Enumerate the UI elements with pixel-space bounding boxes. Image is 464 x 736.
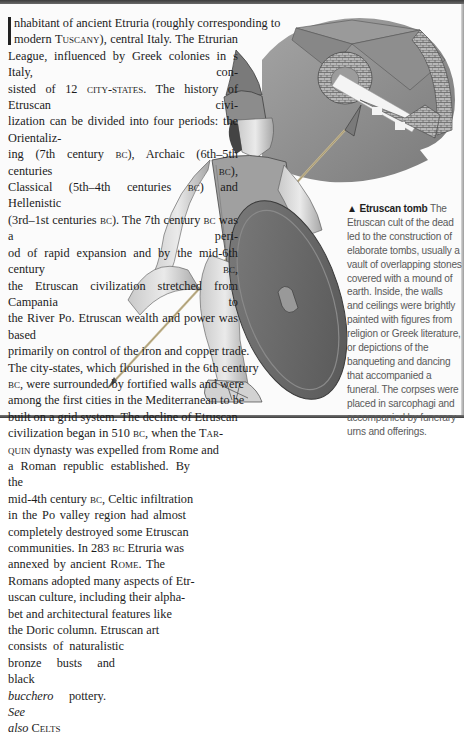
caption-line: accompanied by funerary [347,411,457,425]
article-line: the Etruscan civilization stretched from… [8,278,238,311]
caption-title: Etruscan tomb [359,203,427,214]
article-line: od of rapid expansion and by the mid-6th… [8,245,238,278]
text-run: the Etruscan civilization stretched from… [8,279,238,309]
caption-line: vault of overlapping stones [347,258,457,272]
cross-reference: bc [100,213,112,227]
caption-line: led to the construction of [347,230,457,244]
text-run: pottery. [53,689,106,703]
cross-reference: bc [90,492,102,506]
article-line: ing (7th century bc), Archaic (6th–5th c… [8,146,238,179]
text-run: nhabitant of ancient Etruria (roughly co… [14,16,280,30]
cross-reference: bc [133,426,145,440]
cross-reference: bc [223,262,235,276]
text-run: communities. In 283 [8,541,113,555]
cross-reference: city-states [87,82,143,96]
text-run: Etruria was [125,541,184,555]
article-line: consists of naturalistic [8,638,124,654]
article-line: nhabitant of ancient Etruria (roughly co… [8,15,238,31]
text-run: ), central Italy. The Etrurian [100,32,238,46]
text-run: bronze busts and black [8,656,115,686]
article-line: mid-4th century bc, Celtic infiltration [8,491,238,507]
article-line: sisted of 12 city-states. The history of… [8,81,238,114]
cross-reference: bc [8,377,20,391]
caption-line: urns and offerings. [347,425,457,439]
article-line: uscan culture, including their alpha- [8,589,238,605]
article-line: the River Po. Etruscan wealth and power … [8,310,238,343]
text-run: among the first cities in the Mediterran… [8,393,244,407]
caption-line: funeral. The corpses were [347,383,457,397]
text-run: bucchero [8,689,53,703]
text-run: , were surrounded by fortified walls and… [20,377,244,391]
text-run: lization can be divided into four period… [8,114,238,144]
text-run: . The [139,557,165,571]
caption-line: and ceilings were brightly [347,299,457,313]
text-run: dynasty was expelled from Rome and [31,443,220,457]
caption-line: covered with a mound of [347,272,457,286]
text-run: also [8,721,29,735]
text-run: , when the [145,426,199,440]
article-line: completely destroyed some Etruscan [8,524,238,540]
caption-line: The [430,203,447,214]
cross-reference: Tar- [199,426,223,440]
article-line: civilization began in 510 bc, when the T… [8,425,238,441]
text-run: primarily on control of the iron and cop… [8,344,249,358]
cross-reference: bc [188,180,200,194]
article-line: among the first cities in the Mediterran… [8,392,238,408]
article-line: the Doric column. Etruscan art [8,622,238,638]
text-run: consists of naturalistic [8,639,124,653]
caption-line: banqueting and dancing [347,355,457,369]
text-run: ing (7th century [8,147,116,161]
article-line: bucchero pottery. See [8,688,106,721]
caption-heading-line: ▲ Etruscan tomb The [347,202,457,216]
text-run: completely destroyed some Etruscan [8,525,189,539]
cross-reference: bc [116,147,128,161]
cross-reference: bc [204,213,216,227]
text-run: ). The 7th century [112,213,204,227]
cross-reference: bc [113,541,125,555]
text-run: sisted of 12 [8,82,87,96]
text-run: League, influenced by Greek colonies in [8,49,233,63]
caption-marker-icon: ▲ [347,203,357,214]
text-run: the River Po. Etruscan wealth and power … [8,311,238,341]
article-line: bronze busts and black [8,655,115,688]
article-line: (3rd–1st centuries bc). The 7th century … [8,212,238,245]
etruscan-tomb-illustration [262,18,455,182]
article-line: Classical (5th–4th centuries bc) and Hel… [8,179,238,212]
text-run: Italy, con- [8,65,238,79]
text-run: modern [14,32,55,46]
cross-reference: bc [219,164,231,178]
text-run: ), [231,164,238,178]
image-caption: ▲ Etruscan tomb The Etruscan cult of the… [347,202,457,438]
text-run: Classical (5th–4th centuries [8,180,188,194]
caption-line: or depictions of the [347,341,457,355]
caption-line: placed in sarcophagi and [347,397,457,411]
article-line: quin dynasty was expelled from Rome and [8,442,238,458]
text-run: mid-4th century [8,492,90,506]
text-run: in the Po valley region had almost [8,508,186,522]
article-line: modern Tuscany), central Italy. The Etru… [8,31,238,47]
article-line: communities. In 283 bc Etruria was [8,540,238,556]
drop-cap-initial [8,17,11,45]
cross-reference: Rome [110,557,138,571]
article-line: The city-states, which flourished in the… [8,360,238,376]
article-line: in the Po valley region had almost [8,507,186,523]
article-body: nhabitant of ancient Etruria (roughly co… [8,15,238,736]
caption-line: earth. Inside, the walls [347,285,457,299]
caption-line: Etruscan cult of the dead [347,216,457,230]
text-run: a Roman republic established. By the [8,459,190,489]
text-run: civilization began in 510 [8,426,133,440]
text-run: the Doric column. Etruscan art [8,623,159,637]
article-line: annexed by ancient Rome. The [8,556,165,572]
caption-line: religion or Greek literature, [347,327,457,341]
text-run: , Celtic infiltration [102,492,193,506]
cross-reference: s [233,49,238,63]
text-run: See [8,705,25,719]
article-line: also Celts [8,720,238,736]
text-run: built on a grid system. The decline of E… [8,410,238,424]
article-line: bet and architectural features like [8,606,238,622]
article-line: League, influenced by Greek colonies in … [8,48,238,81]
text-run: bet and architectural features like [8,607,172,621]
caption-line: elaborate tombs, usually a [347,244,457,258]
article-line: bc, were surrounded by fortified walls a… [8,376,238,392]
